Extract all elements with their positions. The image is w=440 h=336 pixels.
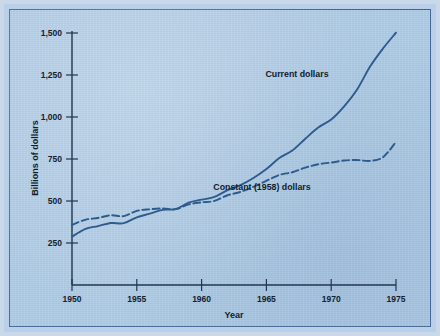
x-tick-label-1955: 1955 bbox=[127, 294, 146, 304]
y-tick-label-750: 750 bbox=[48, 154, 62, 164]
x-tick-label-1970: 1970 bbox=[322, 294, 341, 304]
x-axis-title: Year bbox=[224, 310, 244, 320]
line-chart: 1,500 1,250 1,000 750 500 250 1950 1955 … bbox=[0, 0, 440, 336]
annotation-current-dollars: Current dollars bbox=[265, 69, 328, 79]
y-tick-label-1250: 1,250 bbox=[41, 70, 63, 80]
annotation-constant-dollars: Constant (1958) dollars bbox=[213, 182, 310, 192]
y-tick-label-1000: 1,000 bbox=[41, 112, 63, 122]
y-axis-title: Billions of dollars bbox=[30, 120, 40, 196]
y-tick-label-250: 250 bbox=[48, 238, 62, 248]
x-tick-label-1975: 1975 bbox=[387, 294, 406, 304]
series-line-current-dollars bbox=[72, 33, 396, 237]
y-tick-label-1500: 1,500 bbox=[41, 28, 63, 38]
x-tick-label-1950: 1950 bbox=[63, 294, 82, 304]
y-tick-label-500: 500 bbox=[48, 196, 62, 206]
figure-frame: 1,500 1,250 1,000 750 500 250 1950 1955 … bbox=[0, 0, 440, 336]
x-tick-label-1960: 1960 bbox=[192, 294, 211, 304]
x-tick-label-1965: 1965 bbox=[257, 294, 276, 304]
chart-plot-area: 1,500 1,250 1,000 750 500 250 1950 1955 … bbox=[0, 0, 440, 336]
